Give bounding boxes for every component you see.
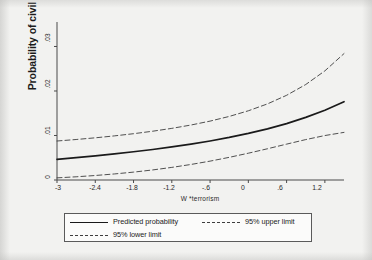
axes <box>57 22 344 180</box>
legend-label: 95% upper limit <box>245 217 295 226</box>
chart-figure: Probability of civil liberties 0 .01 .02… <box>0 0 372 260</box>
legend-item-predicted-probability: Predicted probability <box>70 215 178 228</box>
legend-item-lower-limit: 95% lower limit <box>70 228 161 241</box>
data-series-group <box>57 54 344 178</box>
legend-label: 95% lower limit <box>113 230 161 239</box>
legend-key-solid-line-icon <box>70 218 108 226</box>
series-line-predicted-probability <box>57 102 344 160</box>
series-line-95-upper-limit <box>57 54 344 141</box>
legend-label: Predicted probability <box>113 217 178 226</box>
chart-legend: Predicted probability 95% lower limit 95… <box>64 213 312 242</box>
legend-key-dashed-line-icon <box>70 231 108 239</box>
legend-item-upper-limit: 95% upper limit <box>202 215 295 228</box>
legend-key-dashed-line-icon <box>202 218 240 226</box>
